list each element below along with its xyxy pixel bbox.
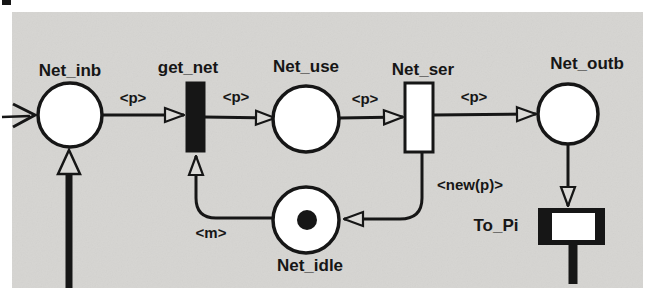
scan-artifact-mark bbox=[2, 0, 11, 5]
label-transition-to-pi: To_Pi bbox=[473, 216, 518, 235]
label-place-net-inb: Net_inb bbox=[39, 61, 101, 80]
label-transition-get-net: get_net bbox=[158, 58, 219, 77]
place-net-outb bbox=[538, 84, 598, 144]
label-place-net-use: Net_use bbox=[273, 57, 339, 76]
transition-to-pi-inner bbox=[552, 213, 595, 240]
arc-netser-to-netoutb bbox=[433, 114, 536, 115]
arc-external-input-line bbox=[2, 116, 30, 117]
label-arc-ser-to-idle: <new(p)> bbox=[437, 176, 503, 193]
arc-netuse-to-netser bbox=[339, 117, 403, 118]
petri-net-figure: Net_inb get_net Net_use Net_ser Net_outb… bbox=[0, 0, 651, 299]
arc-getnet-to-netuse bbox=[204, 117, 275, 118]
token-net-idle bbox=[297, 210, 317, 230]
label-place-net-idle: Net_idle bbox=[277, 256, 343, 275]
place-net-inb bbox=[38, 83, 102, 147]
transition-net-ser bbox=[405, 83, 433, 152]
label-arc-idle-to-getnet: <m> bbox=[196, 224, 227, 241]
transition-get-net bbox=[186, 82, 205, 152]
label-arc-getnet-to-use: <p> bbox=[223, 88, 250, 105]
label-arc-inb-to-getnet: <p> bbox=[120, 89, 147, 106]
place-net-use bbox=[273, 86, 339, 152]
label-arc-ser-to-outb: <p> bbox=[461, 88, 488, 105]
label-place-net-outb: Net_outb bbox=[550, 54, 624, 73]
label-arc-use-to-ser: <p> bbox=[352, 90, 379, 107]
petri-net-canvas: Net_inb get_net Net_use Net_ser Net_outb… bbox=[0, 0, 651, 299]
label-transition-net-ser: Net_ser bbox=[392, 60, 455, 79]
